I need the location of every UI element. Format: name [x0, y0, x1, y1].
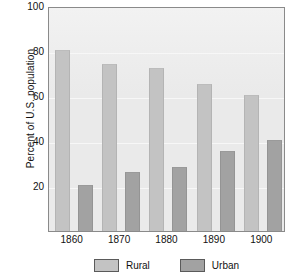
bar-group	[96, 8, 143, 231]
legend-swatch-urban-icon	[180, 259, 205, 272]
x-tick-label: 1870	[95, 234, 142, 246]
x-tick-label: 1880	[143, 234, 190, 246]
x-tick-label: 1860	[48, 234, 95, 246]
legend-label: Rural	[126, 260, 150, 271]
x-tick-label: 1890	[190, 234, 237, 246]
y-axis-tick-labels: 20406080100	[12, 0, 44, 280]
y-tick-label: 60	[14, 92, 44, 102]
x-tick-label: 1900	[238, 234, 285, 246]
y-tick-label: 40	[14, 137, 44, 147]
y-tick-label: 20	[14, 182, 44, 192]
bar-rural-1880[interactable]	[149, 68, 164, 231]
bar-urban-1900[interactable]	[267, 140, 282, 231]
bar-group	[144, 8, 191, 231]
x-axis-tick-labels: 18601870188018901900	[48, 234, 285, 250]
plot-area	[48, 7, 285, 232]
chart-legend: RuralUrban	[48, 255, 285, 275]
bar-group	[239, 8, 285, 231]
bar-urban-1880[interactable]	[172, 167, 187, 231]
legend-item-rural[interactable]: Rural	[94, 259, 150, 272]
bars-layer	[49, 8, 284, 231]
bar-urban-1860[interactable]	[78, 185, 93, 231]
bar-rural-1890[interactable]	[197, 84, 212, 231]
y-tick-label: 100	[14, 2, 44, 12]
y-tick-label: 80	[14, 47, 44, 57]
legend-item-urban[interactable]: Urban	[180, 259, 239, 272]
legend-swatch-rural-icon	[94, 259, 119, 272]
bar-chart: Percent of U.S. population 20406080100 1…	[0, 0, 292, 280]
bar-rural-1900[interactable]	[244, 95, 259, 231]
legend-label: Urban	[212, 260, 239, 271]
bar-urban-1870[interactable]	[125, 172, 140, 232]
bar-rural-1860[interactable]	[55, 50, 70, 231]
bar-rural-1870[interactable]	[102, 64, 117, 232]
bar-urban-1890[interactable]	[220, 151, 235, 231]
bar-group	[49, 8, 96, 231]
bar-group	[191, 8, 238, 231]
